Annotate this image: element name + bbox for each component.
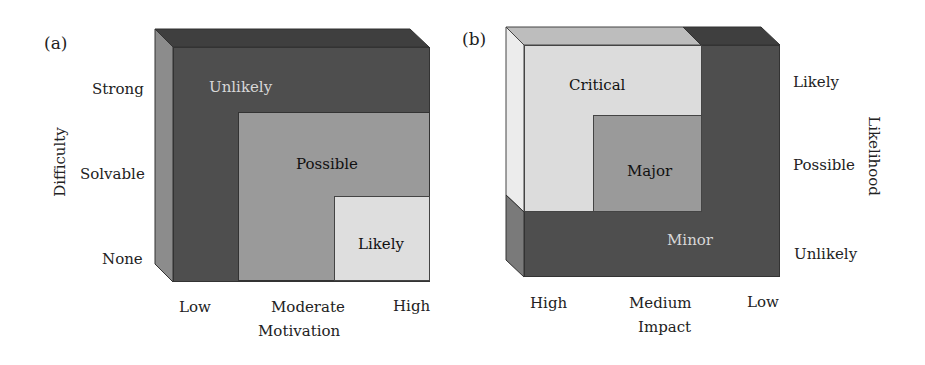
x-tick-high: High <box>530 294 567 312</box>
y-axis-title: Likelihood <box>865 116 883 196</box>
x-axis-title: Motivation <box>258 322 340 340</box>
y-tick-possible: Possible <box>793 156 855 174</box>
region-label-minor: Minor <box>667 231 713 249</box>
y-tick-likely: Likely <box>793 73 839 91</box>
x-axis-title: Impact <box>638 318 691 336</box>
y-tick-unlikely: Unlikely <box>794 245 857 263</box>
panel-b-box-3d <box>0 0 925 300</box>
x-tick-medium: Medium <box>629 294 692 312</box>
region-label-major: Major <box>627 162 672 180</box>
region-label-critical: Critical <box>569 76 625 94</box>
x-tick-moderate: Moderate <box>271 298 345 316</box>
x-tick-low: Low <box>179 298 211 316</box>
x-tick-low: Low <box>747 293 779 311</box>
